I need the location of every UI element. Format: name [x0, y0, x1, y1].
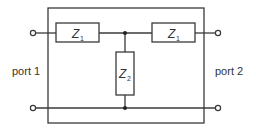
port2-top-terminal: [215, 30, 220, 35]
t-network-diagram: Z 1 Z 1 Z 2 port 1 port 2: [0, 0, 256, 129]
port1-bottom-terminal: [30, 105, 35, 110]
z1-left-subscript: 1: [80, 35, 84, 42]
impedance-z1-left: Z 1: [56, 23, 99, 42]
port1-label: port 1: [12, 65, 40, 77]
port1-top-terminal: [30, 30, 35, 35]
junction-dot-top: [123, 31, 127, 35]
junction-dot-bottom: [123, 106, 127, 110]
z1-left-symbol: Z: [71, 27, 80, 41]
port2-bottom-terminal: [215, 105, 220, 110]
impedance-z1-right: Z 1: [152, 23, 195, 42]
z1-right-symbol: Z: [167, 27, 176, 41]
z2-subscript: 2: [127, 75, 131, 82]
port2-label: port 2: [215, 65, 243, 77]
z2-symbol: Z: [118, 67, 127, 81]
impedance-z2-shunt: Z 2: [116, 52, 134, 95]
z1-right-subscript: 1: [176, 35, 180, 42]
